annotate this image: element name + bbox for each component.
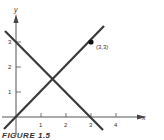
point-marker [88,39,93,44]
x-tick-label-1: 1 [39,122,43,128]
y-axis-arrow-icon [14,14,19,23]
x-axis-label: x [141,114,146,121]
point-label: (3,3) [96,44,108,50]
y-ticks [16,42,21,92]
chart-canvas: 1 2 3 4 1 2 3 x y (3,3) [0,0,164,140]
y-tick-label-2: 2 [8,64,12,70]
x-tick-label-3: 3 [89,122,93,128]
x-tick-label-2: 2 [64,122,68,128]
y-tick-label-3: 3 [8,39,12,45]
y-axis-label: y [13,6,18,14]
figure-caption: FIGURE 1.5 [2,131,51,140]
x-tick-label-4: 4 [114,122,118,128]
line-y-equals-3-minus-x [5,31,103,130]
x-ticks [41,113,116,117]
y-tick-label-1: 1 [8,89,12,95]
